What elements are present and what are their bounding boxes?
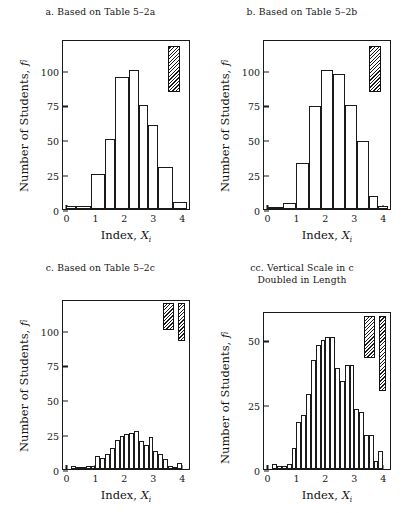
bin-width-marker-icon [168, 46, 180, 92]
histogram-bar [148, 125, 158, 209]
y-tick-label: 75 [47, 361, 59, 372]
y-tick-label: 25 [248, 171, 260, 182]
y-tick-label: 25 [47, 171, 59, 182]
histogram-bar [267, 207, 283, 209]
y-tick-mark [264, 141, 269, 142]
y-tick-label: 0 [53, 206, 59, 217]
histogram-bar [283, 203, 296, 209]
panel-c-plot-area: 025507510001234 [62, 300, 190, 470]
histogram-bar [173, 202, 187, 209]
panel-cc-xlabel: Index, Xi [263, 488, 391, 504]
histogram-bar [296, 163, 308, 209]
histogram-bar [105, 139, 115, 209]
x-tick-label: 4 [179, 213, 185, 224]
histogram-bar [345, 105, 357, 210]
histogram-bar [357, 141, 369, 209]
panel-b-xlabel-sub: i [350, 235, 352, 244]
panel-c-ylabel-symbol: f [17, 322, 31, 326]
x-tick-mark [66, 465, 67, 470]
panel-c-ylabel-text: Number of Students, [17, 330, 31, 452]
panel-b-ylabel-sub: i [221, 60, 230, 62]
y-tick-label: 75 [248, 101, 260, 112]
y-tick-label: 50 [47, 396, 59, 407]
y-tick-label: 75 [47, 101, 59, 112]
panel-a: a. Based on Table 5–2a Number of Student… [0, 0, 201, 256]
y-tick-label: 0 [254, 466, 260, 477]
y-tick-label: 0 [254, 206, 260, 217]
panel-b-xlabel-symbol: X [342, 228, 350, 242]
panel-a-ylabel: Number of Students, fi [14, 42, 34, 210]
x-tick-label: 0 [264, 213, 270, 224]
y-tick-mark [264, 341, 269, 342]
x-tick-mark [267, 465, 268, 470]
bin-width-marker-icon [369, 46, 381, 92]
histogram-bar [91, 174, 105, 209]
x-tick-label: 0 [63, 213, 69, 224]
panel-b-plot-area: 025507510001234 [263, 40, 391, 210]
panel-cc-title: cc. Vertical Scale in c Doubled in Lengt… [201, 262, 403, 285]
panel-cc-xlabel-sub: i [350, 495, 352, 504]
x-tick-label: 1 [92, 213, 98, 224]
panel-a-plot-area: 025507510001234 [62, 40, 190, 210]
panel-b-xlabel: Index, Xi [263, 228, 391, 244]
y-tick-label: 50 [248, 336, 260, 347]
panel-cc-ylabel-text: Number of Students, [218, 342, 232, 464]
x-tick-label: 3 [150, 213, 156, 224]
bin-width-marker-icon [364, 316, 375, 357]
panel-cc-xlabel-text: Index, [302, 488, 338, 502]
y-tick-mark [264, 176, 269, 177]
panel-c-xlabel-symbol: X [141, 488, 149, 502]
y-tick-mark [63, 471, 68, 472]
x-tick-label: 2 [322, 213, 328, 224]
y-tick-mark [63, 71, 68, 72]
panel-c-ylabel-sub: i [20, 320, 29, 322]
y-tick-mark [63, 211, 68, 212]
panel-b-title: b. Based on Table 5–2b [201, 6, 403, 18]
panel-a-title: a. Based on Table 5–2a [0, 6, 201, 18]
histogram-bar [129, 70, 139, 209]
panel-c: c. Based on Table 5–2c Number of Student… [0, 256, 201, 513]
panel-cc-ylabel-sub: i [221, 332, 230, 334]
x-tick-label: 2 [322, 473, 328, 484]
y-tick-label: 50 [248, 136, 260, 147]
panel-c-title: c. Based on Table 5–2c [0, 262, 201, 274]
panel-b-xlabel-text: Index, [302, 228, 338, 242]
y-tick-label: 25 [47, 431, 59, 442]
x-tick-label: 2 [121, 473, 127, 484]
panel-cc-title-line2: Doubled in Length [201, 274, 403, 286]
panel-cc-xlabel-symbol: X [342, 488, 350, 502]
y-tick-label: 100 [41, 326, 59, 337]
x-tick-label: 4 [179, 473, 185, 484]
histogram-bar [378, 206, 388, 209]
panel-a-xlabel: Index, Xi [62, 228, 190, 244]
x-tick-label: 1 [293, 213, 299, 224]
x-tick-label: 2 [121, 213, 127, 224]
panel-cc-plot-area: 0255001234 [263, 312, 391, 470]
y-tick-mark [264, 71, 269, 72]
bin-height-marker-icon [379, 316, 385, 391]
y-tick-label: 100 [41, 66, 59, 77]
histogram-bar [309, 106, 321, 209]
panel-a-xlabel-text: Index, [101, 228, 137, 242]
histogram-bar [66, 206, 76, 209]
panel-c-xlabel-sub: i [149, 495, 151, 504]
histogram-bar [139, 105, 149, 210]
y-tick-label: 0 [53, 466, 59, 477]
y-tick-mark [63, 401, 68, 402]
bin-width-marker-icon [163, 303, 174, 329]
panel-cc: cc. Vertical Scale in c Doubled in Lengt… [201, 256, 403, 513]
y-tick-mark [63, 176, 68, 177]
panel-c-xlabel: Index, Xi [62, 488, 190, 504]
y-tick-mark [63, 106, 68, 107]
y-tick-mark [264, 471, 269, 472]
panel-cc-ylabel-symbol: f [218, 334, 232, 338]
panel-cc-title-line1: cc. Vertical Scale in c [250, 262, 353, 273]
x-tick-label: 4 [380, 473, 386, 484]
y-tick-label: 50 [47, 136, 59, 147]
panel-cc-ylabel: Number of Students, fi [215, 314, 235, 482]
histogram-bar [177, 463, 182, 469]
histogram-bar [333, 74, 345, 209]
histogram-bar [158, 167, 172, 209]
panel-a-xlabel-sub: i [149, 235, 151, 244]
panel-b: b. Based on Table 5–2b Number of Student… [201, 0, 403, 256]
